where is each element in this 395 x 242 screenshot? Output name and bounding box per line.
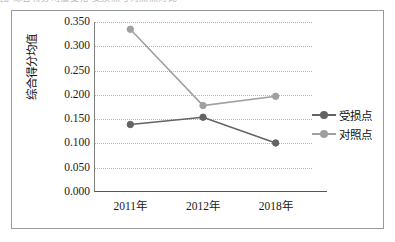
legend-marker-icon — [312, 128, 336, 140]
y-axis-tick-label: 0.350 — [46, 16, 90, 28]
figure-caption-sliver: 图 综合得分均值变化 受损点与对照点对比 — [0, 0, 395, 7]
y-axis-tick-label: 0.050 — [46, 162, 90, 174]
series-layer — [94, 22, 312, 192]
y-axis-tick-label: 0.250 — [46, 65, 90, 77]
y-axis-tick-label: 0.200 — [46, 89, 90, 101]
x-axis-tick-label: 2018年 — [236, 197, 316, 213]
y-axis-title: 综合得分均值 — [23, 17, 39, 117]
y-axis-tick-labels: 0.0000.0500.1000.1500.2000.2500.3000.350 — [42, 22, 90, 192]
series-line-对照点 — [130, 29, 275, 105]
data-point-marker — [200, 102, 206, 108]
legend-label: 对照点 — [339, 126, 372, 142]
chart-legend: 受损点对照点 — [312, 105, 387, 143]
data-point-marker — [272, 93, 278, 99]
y-axis-tick-label: 0.000 — [46, 186, 90, 198]
line-chart: 0.0000.0500.1000.1500.2000.2500.3000.350… — [12, 11, 385, 230]
data-point-marker — [127, 121, 133, 127]
legend-item-受损点[interactable]: 受损点 — [312, 105, 387, 124]
x-axis-tick-label: 2012年 — [163, 197, 243, 213]
y-axis-tick-label: 0.300 — [46, 41, 90, 53]
x-axis-baseline-extension — [312, 191, 327, 192]
data-point-marker — [272, 140, 278, 146]
y-axis-tick-label: 0.150 — [46, 113, 90, 125]
figure-frame: 0.0000.0500.1000.1500.2000.2500.3000.350… — [11, 10, 384, 229]
x-axis-tick-label: 2011年 — [90, 197, 170, 213]
legend-label: 受损点 — [339, 107, 372, 123]
data-point-marker — [127, 26, 133, 32]
data-point-marker — [200, 114, 206, 120]
legend-item-对照点[interactable]: 对照点 — [312, 124, 387, 143]
y-axis-tick-label: 0.100 — [46, 138, 90, 150]
series-line-受损点 — [130, 117, 275, 143]
legend-marker-icon — [312, 109, 336, 121]
